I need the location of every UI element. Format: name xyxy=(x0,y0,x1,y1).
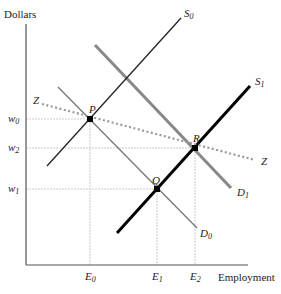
point-p-label: P xyxy=(88,103,96,115)
e1-label: E1 xyxy=(151,270,163,284)
axes xyxy=(26,24,248,265)
z-right-label: Z xyxy=(261,155,268,167)
w1-label: w1 xyxy=(8,182,19,196)
x-axis-label: Employment xyxy=(218,271,275,283)
d0-curve xyxy=(58,87,197,228)
e2-label: E2 xyxy=(189,270,201,284)
s1-label: S1 xyxy=(255,75,265,89)
d0-label: D0 xyxy=(199,227,212,241)
point-q-marker xyxy=(154,186,160,192)
point-p-marker xyxy=(87,116,93,122)
w2-label: w2 xyxy=(8,141,19,155)
z-left-label: Z xyxy=(33,94,40,106)
d1-curve xyxy=(95,45,231,188)
labor-market-diagram: Dollars Employment w0 w2 w1 E0 E1 E2 S0 … xyxy=(0,0,281,294)
e0-label: E0 xyxy=(84,270,96,284)
s1-curve xyxy=(117,86,250,233)
d1-label: D1 xyxy=(236,186,249,200)
y-axis-label: Dollars xyxy=(4,8,36,20)
z-curve xyxy=(42,104,255,160)
point-r-marker xyxy=(192,145,198,151)
point-q-label: Q xyxy=(152,174,160,186)
w0-label: w0 xyxy=(8,112,19,126)
s0-label: S0 xyxy=(184,7,194,21)
point-r-label: R xyxy=(192,132,200,144)
